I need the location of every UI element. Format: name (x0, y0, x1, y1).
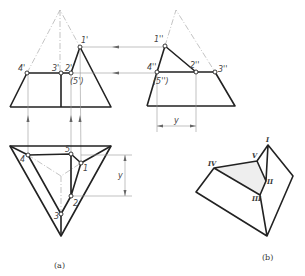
arrow-icon (112, 72, 119, 75)
point-3-top (59, 212, 63, 216)
label-3-side: 3'' (218, 65, 228, 74)
label-2-side: 2'' (190, 61, 200, 70)
point-1-front (78, 45, 82, 49)
label-5-top: 5 (65, 145, 70, 154)
point-4-front (25, 71, 29, 75)
caption-a: (a) (54, 261, 65, 270)
label-I: I (265, 136, 270, 144)
projection-drawing: 1' 4' 3' 2' (5') y 1'' 4'' 2'' 3'' (5'') (0, 0, 305, 276)
point-3-side (213, 70, 217, 74)
label-5-front: (5') (70, 77, 84, 86)
label-1-side: 1'' (154, 35, 164, 44)
point-2-top (69, 194, 73, 198)
arrow-icon (79, 115, 82, 122)
iso-view: I V IV II III (b) (196, 136, 293, 262)
arrow-icon (27, 115, 30, 122)
top-view: y 4 5 1 2 3 (a) (10, 145, 132, 270)
arrow-icon (112, 46, 119, 49)
side-view: y 1'' 4'' 2'' 3'' (5'') (147, 10, 235, 132)
label-4-top: 4 (20, 155, 25, 164)
point-1-side (163, 44, 167, 48)
label-1-front: 1' (81, 36, 88, 45)
label-1-top: 1 (83, 164, 88, 173)
top-inner-edges (10, 146, 111, 236)
label-4-front: 4' (18, 64, 25, 73)
point-4-top (26, 153, 30, 157)
label-3-front: 3' (52, 64, 59, 73)
caption-b: (b) (262, 253, 273, 262)
label-5-side: (5'') (153, 77, 169, 86)
arrow-icon (124, 190, 127, 196)
label-4-side: 4'' (147, 63, 157, 72)
label-III: III (251, 195, 262, 203)
top-dim-label: y (117, 171, 123, 180)
arrow-icon (70, 115, 73, 122)
iso-outline (196, 145, 293, 236)
arrow-icon (124, 155, 127, 161)
label-2-front: 2' (65, 64, 72, 73)
side-dim-label: y (173, 116, 179, 125)
arrow-icon (190, 125, 196, 128)
label-II: II (266, 178, 274, 186)
arrow-icon (157, 125, 163, 128)
point-2-side (194, 70, 198, 74)
label-2-top: 2 (73, 199, 78, 208)
label-3-top: 3 (54, 212, 59, 221)
label-IV: IV (207, 160, 217, 168)
label-V: V (252, 152, 258, 160)
point-3-front (59, 71, 63, 75)
